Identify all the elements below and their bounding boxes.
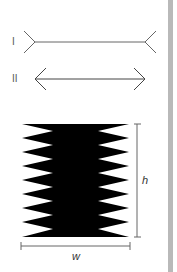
width-label: w	[72, 251, 80, 262]
side-bar	[168, 0, 173, 272]
illusion-figure: I II	[0, 0, 177, 272]
muller-lyer-line-i	[24, 31, 156, 53]
muller-lyer-line-ii	[35, 68, 145, 90]
figure-drawing	[0, 0, 177, 272]
height-dimension	[134, 124, 141, 237]
width-dimension	[21, 242, 130, 250]
zigzag-shape	[22, 124, 129, 237]
height-label: h	[142, 175, 148, 186]
